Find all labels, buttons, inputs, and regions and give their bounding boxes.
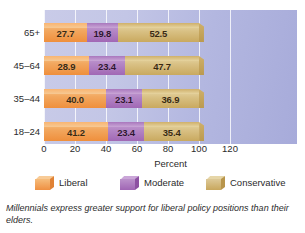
x-axis-title: Percent <box>44 158 297 169</box>
table-row: 27.7 19.8 52.5 <box>44 23 204 42</box>
y-axis-category-labels: 65+ 45–64 35–44 18–24 <box>0 10 40 144</box>
bar-value-label: 35.4 <box>163 125 181 138</box>
legend-item-liberal[interactable]: Liberal <box>35 176 88 190</box>
y-axis-tick-label: 45–64 <box>0 61 40 71</box>
bar-value-label: 23.4 <box>117 125 135 138</box>
bar-end-cap <box>199 23 204 42</box>
x-axis-tick-label: 80 <box>163 144 174 154</box>
legend-label: Moderate <box>144 178 184 188</box>
legend-label: Liberal <box>59 178 88 188</box>
table-row: 41.2 23.4 35.4 <box>44 122 204 141</box>
x-axis-tick-label: 100 <box>191 144 207 154</box>
y-axis-tick-label: 35–44 <box>0 94 40 104</box>
x-axis-tick-label: 60 <box>132 144 143 154</box>
figure-caption: Millennials express greater support for … <box>6 202 298 226</box>
y-axis-tick-label: 18–24 <box>0 127 40 137</box>
bar-segment-liberal: 28.9 <box>44 56 89 75</box>
bar-end-cap <box>199 122 204 141</box>
bar-segment-conservative: 47.7 <box>125 56 199 75</box>
bar-segment-moderate: 23.4 <box>108 122 144 141</box>
x-axis-tick-label: 20 <box>70 144 81 154</box>
bar-segment-liberal: 41.2 <box>44 122 108 141</box>
bar-end-cap <box>199 56 204 75</box>
bar-value-label: 23.4 <box>98 59 116 72</box>
bar-value-label: 47.7 <box>153 59 171 72</box>
bars-layer: 27.7 19.8 52.5 28.9 <box>44 10 297 144</box>
stacked-bar-chart-figure: 65+ 45–64 35–44 18–24 27.7 19.8 <box>0 0 305 233</box>
bar-value-label: 36.9 <box>162 92 180 105</box>
x-axis-tick-label: 40 <box>101 144 112 154</box>
table-row: 40.0 23.1 36.9 <box>44 89 204 108</box>
legend-swatch-conservative-icon <box>206 176 225 190</box>
table-row: 28.9 23.4 47.7 <box>44 56 204 75</box>
bar-segment-moderate: 23.1 <box>106 89 142 108</box>
bar-value-label: 19.8 <box>93 26 111 39</box>
bar-segment-conservative: 36.9 <box>142 89 199 108</box>
bar-value-label: 41.2 <box>67 125 85 138</box>
legend-swatch-moderate-icon <box>120 176 139 190</box>
bar-segment-liberal: 40.0 <box>44 89 106 108</box>
bar-value-label: 52.5 <box>149 26 167 39</box>
bar-segment-moderate: 19.8 <box>87 23 118 42</box>
legend-swatch-liberal-icon <box>35 176 54 190</box>
legend-item-conservative[interactable]: Conservative <box>206 176 285 190</box>
x-axis-tick-label: 0 <box>41 144 46 154</box>
y-axis-tick-label: 65+ <box>0 28 40 38</box>
bar-value-label: 23.1 <box>115 92 133 105</box>
bar-segment-liberal: 27.7 <box>44 23 87 42</box>
bar-end-cap <box>199 89 204 108</box>
plot-area: 27.7 19.8 52.5 28.9 <box>44 10 297 144</box>
bar-value-label: 27.7 <box>57 26 75 39</box>
legend: Liberal Moderate Conservative <box>10 176 300 198</box>
legend-label: Conservative <box>230 178 285 188</box>
bar-value-label: 40.0 <box>66 92 84 105</box>
x-axis-tick-label: 120 <box>222 144 238 154</box>
legend-item-moderate[interactable]: Moderate <box>120 176 184 190</box>
bar-segment-conservative: 52.5 <box>118 23 199 42</box>
bar-segment-conservative: 35.4 <box>144 122 199 141</box>
bar-value-label: 28.9 <box>58 59 76 72</box>
bar-segment-moderate: 23.4 <box>89 56 125 75</box>
